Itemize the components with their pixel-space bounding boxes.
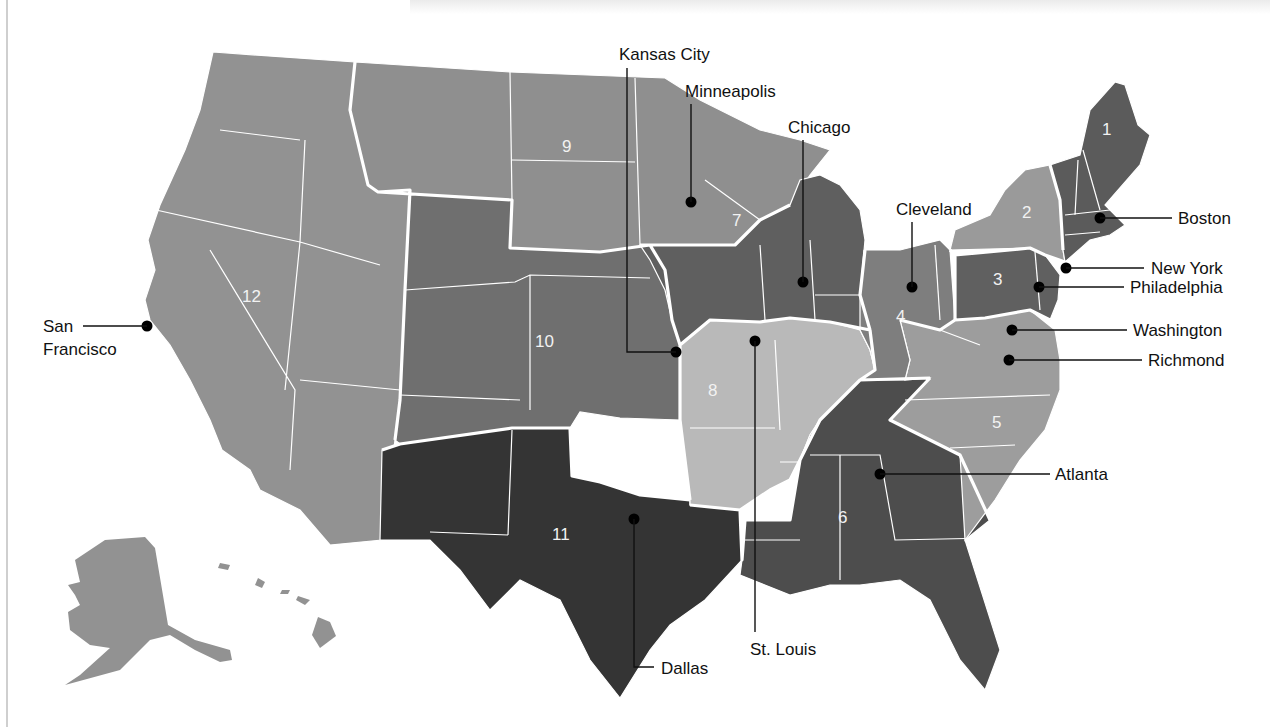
district-number-12: 12 [242,287,261,306]
district-number-2: 2 [1022,203,1031,222]
city-label-new-york: New York [1151,259,1223,278]
district-number-8: 8 [708,381,717,400]
city-label-cleveland: Cleveland [896,200,972,219]
hawaii-island [312,617,336,648]
district-number-10: 10 [535,332,554,351]
city-marker-san-francisco[interactable]: San Francisco [43,317,153,359]
district-number-7: 7 [732,211,741,230]
city-label-chicago: Chicago [788,118,850,137]
city-label-washington: Washington [1133,321,1222,340]
district-number-6: 6 [838,508,847,527]
city-label-st-louis: St. Louis [750,640,816,659]
hawaii-island [255,578,265,588]
alaska-hawaii-region[interactable] [65,537,336,685]
city-marker-philadelphia[interactable]: Philadelphia [1034,278,1224,297]
district-3-region[interactable] [955,248,1060,320]
city-label-kansas-city: Kansas City [619,45,710,64]
hawaii-island [296,596,310,605]
hawaii-island [218,563,230,570]
city-label-philadelphia: Philadelphia [1130,278,1223,297]
city-label-atlanta: Atlanta [1055,465,1108,484]
city-label-richmond: Richmond [1148,351,1225,370]
alaska-shape [65,537,232,685]
city-marker-new-york[interactable]: New York [1061,259,1224,278]
district-number-3: 3 [993,270,1002,289]
city-label-minneapolis: Minneapolis [685,82,776,101]
district-number-1: 1 [1102,120,1111,139]
district-number-11: 11 [552,525,570,544]
district-number-4: 4 [896,307,905,326]
city-label-boston: Boston [1178,209,1231,228]
hawaii-island [280,590,290,594]
city-label-san-francisco-line1: San [43,317,73,336]
district-3-fill [955,248,1060,320]
city-label-dallas: Dallas [661,659,708,678]
city-label-san-francisco-line2: Francisco [43,340,117,359]
district-number-9: 9 [562,137,571,156]
district-number-5: 5 [992,413,1001,432]
federal-reserve-district-map: 1 2 3 4 5 6 7 8 9 10 11 12 Boston New Yo… [0,0,1277,727]
district-1-region[interactable] [1050,82,1150,262]
